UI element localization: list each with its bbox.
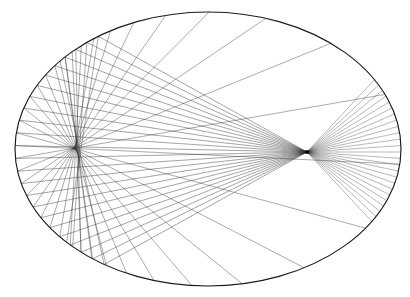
ellipse-ray-diagram xyxy=(0,0,410,297)
figure-background xyxy=(0,0,410,297)
right-focus-point xyxy=(305,150,309,154)
